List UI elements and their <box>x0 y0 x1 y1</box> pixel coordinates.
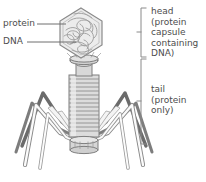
sheath-highlight <box>71 76 76 136</box>
label-tail: tail (protein only) <box>151 84 187 116</box>
bacteriophage-diagram: protein DNA head (protein capsule contai… <box>0 0 206 182</box>
head-bracket <box>141 8 146 57</box>
base-plate <box>70 136 98 153</box>
label-head: head (protein capsule containing DNA) <box>151 6 198 59</box>
tail-sheath <box>69 75 99 137</box>
label-dna: DNA <box>3 36 23 47</box>
capsid-hexagon <box>60 8 102 58</box>
label-protein: protein <box>3 18 35 29</box>
head-capsid <box>60 8 102 58</box>
